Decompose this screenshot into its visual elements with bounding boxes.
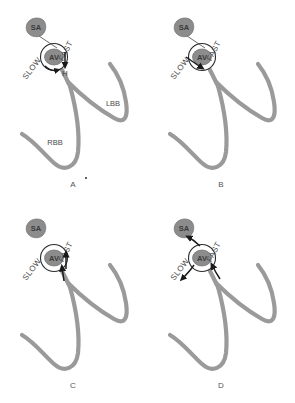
sa-av-connection-line — [39, 36, 57, 48]
conduction-tracts — [22, 265, 127, 369]
panel-d-illustration: SA AV FAST SLOW — [148, 201, 295, 402]
sa-node-label: SA — [31, 224, 42, 233]
left-bundle-branch-label: LBB — [106, 99, 120, 108]
sa-node: SA — [174, 18, 194, 37]
slow-pathway-label: SLOW — [169, 257, 192, 282]
right-bundle-branch-tract — [170, 86, 227, 168]
panel-a-illustration: SA AV FAST SLOW H LBB RB — [0, 0, 147, 201]
slow-pathway-label: SLOW — [21, 56, 44, 81]
panel-letter-d: D — [211, 381, 231, 390]
conduction-tracts — [22, 64, 127, 168]
panel-c-illustration: SA AV FAST SLOW — [0, 201, 147, 402]
conduction-tracts — [170, 265, 275, 369]
sa-av-connection-line — [187, 36, 205, 48]
right-bundle-branch-label: RBB — [47, 138, 62, 147]
slow-antegrade-arrow — [45, 66, 58, 70]
sa-node: SA — [26, 219, 46, 238]
sa-node-label: SA — [179, 224, 190, 233]
right-bundle-branch-tract — [22, 86, 79, 168]
his-bundle-label: H — [62, 69, 68, 78]
sa-node-label: SA — [179, 23, 190, 32]
sa-node: SA — [174, 219, 194, 238]
panel-letter-a: A — [63, 180, 83, 189]
fast-retrograde-inner-arrow — [62, 267, 64, 281]
conduction-tracts — [170, 64, 275, 168]
reentry-exit-arrow — [188, 237, 200, 246]
slow-pathway-label: SLOW — [21, 257, 44, 282]
sa-node: SA — [26, 18, 46, 37]
panel-a: SA AV FAST SLOW H LBB RB — [0, 0, 147, 201]
slow-pathway-label: SLOW — [169, 56, 192, 81]
sa-node-label: SA — [31, 23, 42, 32]
panel-b: SA AV FAST SLOW — [148, 0, 295, 201]
right-bundle-branch-tract — [22, 287, 79, 369]
panel-d: SA AV FAST SLOW — [148, 201, 295, 402]
panel-c: SA AV FAST SLOW — [0, 201, 147, 402]
right-bundle-branch-tract — [170, 287, 227, 369]
panel-letter-c: C — [63, 381, 83, 390]
scan-artifact-speck — [85, 177, 87, 179]
conduction-diagram-figure: SA AV FAST SLOW H LBB RB — [0, 0, 295, 403]
panel-b-illustration: SA AV FAST SLOW — [148, 0, 295, 201]
panel-letter-b: B — [211, 180, 231, 189]
